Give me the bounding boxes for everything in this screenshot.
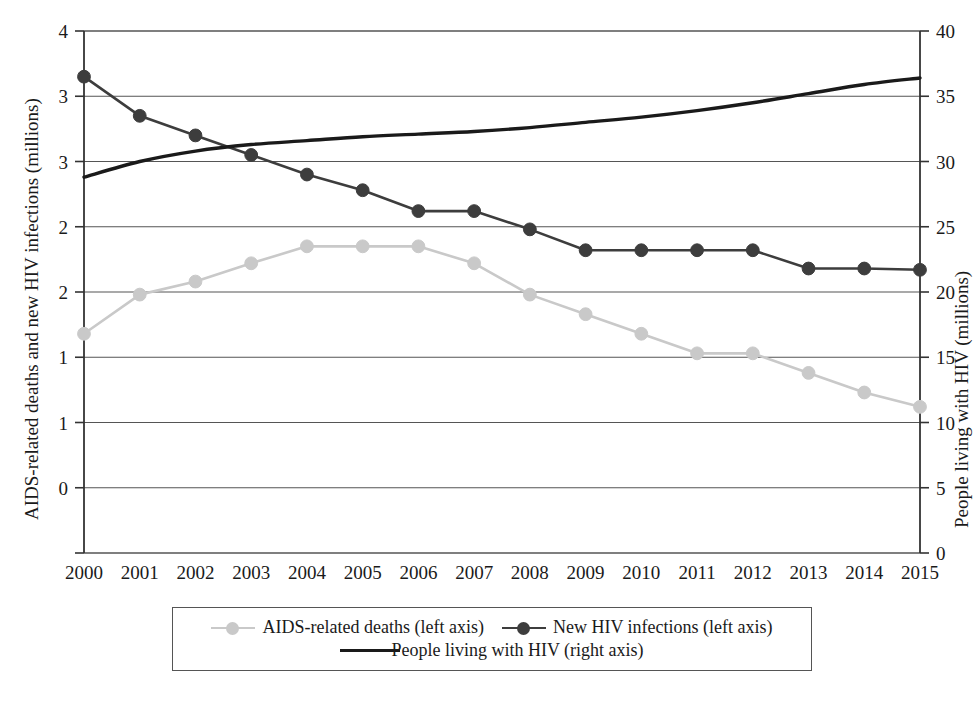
ytick-label-right-2: 30 bbox=[936, 152, 955, 173]
series-line-2 bbox=[84, 77, 920, 270]
legend-label-new-infections: New HIV infections (left axis) bbox=[553, 617, 773, 638]
ytick-label-left-7: 0 bbox=[59, 478, 69, 499]
data-point bbox=[523, 223, 536, 236]
data-point bbox=[356, 240, 369, 253]
data-point bbox=[746, 347, 759, 360]
data-point bbox=[133, 109, 146, 122]
xtick-label-2000: 2000 bbox=[65, 562, 103, 583]
axis-title-right: People living with HIV (millions) bbox=[951, 271, 973, 528]
ytick-label-right-7: 5 bbox=[936, 478, 946, 499]
data-point bbox=[914, 263, 927, 276]
ytick-label-left-0: 4 bbox=[59, 21, 69, 42]
data-point bbox=[635, 244, 648, 257]
xtick-label-2002: 2002 bbox=[176, 562, 214, 583]
legend-swatch-aids-deaths bbox=[211, 621, 255, 635]
data-point bbox=[468, 205, 481, 218]
ytick-label-left-3: 2 bbox=[59, 217, 69, 238]
legend-item-new-infections[interactable]: New HIV infections (left axis) bbox=[502, 617, 773, 638]
plot-area: 4332211040353025201510502000200120022003… bbox=[0, 0, 980, 600]
chart-svg: 4332211040353025201510502000200120022003… bbox=[0, 0, 980, 600]
xtick-label-2004: 2004 bbox=[288, 562, 327, 583]
chart-legend: AIDS-related deaths (left axis) New HIV … bbox=[172, 607, 812, 671]
ytick-label-right-0: 40 bbox=[936, 21, 955, 42]
legend-row-1: AIDS-related deaths (left axis) New HIV … bbox=[211, 617, 772, 638]
data-point bbox=[523, 288, 536, 301]
ytick-label-right-8: 0 bbox=[936, 543, 946, 564]
data-point bbox=[802, 367, 815, 380]
xtick-label-2006: 2006 bbox=[399, 562, 437, 583]
data-point bbox=[412, 205, 425, 218]
chart-root: 4332211040353025201510502000200120022003… bbox=[0, 0, 980, 707]
data-point bbox=[133, 288, 146, 301]
data-point bbox=[746, 244, 759, 257]
xtick-label-2011: 2011 bbox=[678, 562, 715, 583]
data-point bbox=[691, 347, 704, 360]
xtick-label-2007: 2007 bbox=[455, 562, 493, 583]
data-point bbox=[691, 244, 704, 257]
legend-label-aids-deaths: AIDS-related deaths (left axis) bbox=[262, 617, 483, 638]
ytick-label-left-5: 1 bbox=[59, 347, 69, 368]
xtick-label-2014: 2014 bbox=[845, 562, 884, 583]
data-point bbox=[78, 70, 91, 83]
series-3 bbox=[84, 78, 920, 177]
xtick-label-2013: 2013 bbox=[790, 562, 828, 583]
legend-item-aids-deaths[interactable]: AIDS-related deaths (left axis) bbox=[211, 617, 483, 638]
ytick-label-left-2: 3 bbox=[59, 152, 69, 173]
data-point bbox=[858, 262, 871, 275]
ytick-label-right-3: 25 bbox=[936, 217, 955, 238]
axis-title-left: AIDS-related deaths and new HIV infectio… bbox=[21, 98, 43, 520]
ytick-label-left-1: 3 bbox=[59, 86, 69, 107]
xtick-label-2003: 2003 bbox=[232, 562, 270, 583]
xtick-label-2010: 2010 bbox=[622, 562, 660, 583]
data-point bbox=[245, 257, 258, 270]
data-point bbox=[78, 327, 91, 340]
legend-row-2: People living with HIV (right axis) bbox=[340, 640, 643, 661]
data-point bbox=[579, 308, 592, 321]
ytick-label-left-6: 1 bbox=[59, 413, 69, 434]
legend-item-people-living[interactable]: People living with HIV (right axis) bbox=[340, 640, 643, 661]
ytick-label-right-1: 35 bbox=[936, 86, 955, 107]
xtick-label-2005: 2005 bbox=[344, 562, 382, 583]
series-2 bbox=[78, 70, 927, 276]
data-point bbox=[635, 327, 648, 340]
legend-swatch-people-living bbox=[340, 644, 384, 658]
xtick-label-2012: 2012 bbox=[734, 562, 772, 583]
data-point bbox=[468, 257, 481, 270]
data-point bbox=[356, 184, 369, 197]
series-line-people-living bbox=[84, 78, 920, 177]
data-point bbox=[189, 129, 202, 142]
xtick-label-2001: 2001 bbox=[121, 562, 159, 583]
xtick-label-2015: 2015 bbox=[901, 562, 939, 583]
data-point bbox=[301, 168, 314, 181]
data-point bbox=[579, 244, 592, 257]
legend-label-people-living: People living with HIV (right axis) bbox=[391, 640, 643, 661]
data-point bbox=[412, 240, 425, 253]
data-point bbox=[914, 400, 927, 413]
data-point bbox=[301, 240, 314, 253]
xtick-label-2008: 2008 bbox=[511, 562, 549, 583]
data-point bbox=[802, 262, 815, 275]
series-line-1 bbox=[84, 246, 920, 407]
xtick-label-2009: 2009 bbox=[567, 562, 605, 583]
ytick-label-left-4: 2 bbox=[59, 282, 69, 303]
data-point bbox=[189, 275, 202, 288]
data-point bbox=[245, 149, 258, 162]
legend-swatch-new-infections bbox=[502, 621, 546, 635]
data-point bbox=[858, 386, 871, 399]
